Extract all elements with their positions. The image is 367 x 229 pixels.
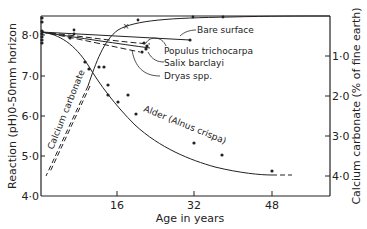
- r-tick-4: 4·0: [332, 170, 350, 183]
- y-tick-5: 5·0: [22, 150, 40, 163]
- y-tick-4: 4·0: [22, 190, 40, 203]
- y-tick-7: 7·0: [22, 70, 40, 83]
- x-axis-label: Age in years: [156, 212, 225, 225]
- y-axis-right-labels: 1·0 2·0 3·0 4·0: [332, 50, 350, 183]
- y-axis-right-label: Calcium carbonate (% of fine earth): [350, 7, 363, 204]
- r-tick-2: 2·0: [332, 90, 350, 103]
- bare-surface-leader: [180, 30, 196, 36]
- label-alder: Alder (Alnus crispa): [142, 104, 227, 146]
- plot-frame: [41, 16, 330, 196]
- series-labels: Bare surface Populus trichocarpa Salix b…: [164, 25, 254, 81]
- x-tick-48: 48: [265, 199, 279, 212]
- y-axis-left-label: Reaction (pH)0-50mm horizon: [6, 23, 19, 189]
- label-salix: Salix barclayi: [164, 58, 224, 68]
- label-dryas: Dryas spp.: [164, 71, 212, 81]
- populus-curve: [41, 32, 150, 44]
- x-axis-ticks: [117, 191, 272, 196]
- r-tick-3: 3·0: [332, 130, 350, 143]
- x-axis-labels: 16 32 48: [110, 199, 279, 212]
- label-populus: Populus trichocarpa: [164, 46, 253, 56]
- chart: 8·0 7·0 6·0 5·0 4·0 Reaction (pH)0-50mm …: [0, 0, 367, 229]
- y-axis-right-ticks: [325, 56, 330, 176]
- cross-marker: ×: [123, 22, 130, 31]
- salix-leader: [148, 52, 164, 62]
- populus-leader: [146, 38, 166, 46]
- y-tick-6: 6·0: [22, 110, 40, 123]
- dryas-leader: [132, 50, 160, 76]
- x-tick-32: 32: [187, 199, 201, 212]
- x-tick-16: 16: [110, 199, 124, 212]
- y-tick-8: 8·0: [22, 29, 40, 42]
- r-tick-1: 1·0: [332, 50, 350, 63]
- salix-curve: [41, 32, 150, 48]
- label-bare-surface: Bare surface: [197, 25, 254, 35]
- y-axis-left-labels: 8·0 7·0 6·0 5·0 4·0: [22, 29, 40, 203]
